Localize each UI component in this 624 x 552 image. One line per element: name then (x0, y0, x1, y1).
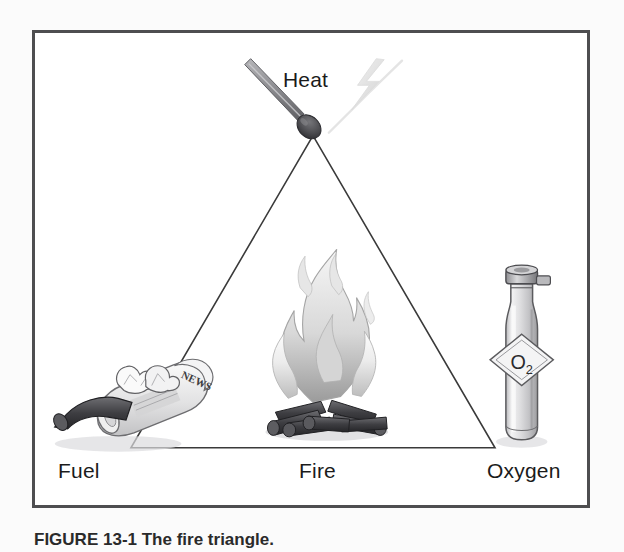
center-label-fire: Fire (299, 459, 336, 483)
cylinder-valve-nozzle (537, 276, 551, 285)
campfire-icon (265, 249, 388, 441)
figure-caption: FIGURE 13-1 The fire triangle. (34, 530, 594, 550)
figure-frame: NEWS (32, 30, 590, 508)
fuel-shadow (55, 436, 182, 452)
fire-triangle-illustration: NEWS (35, 33, 587, 505)
vertex-label-fuel: Fuel (58, 459, 100, 483)
figure-canvas: NEWS (35, 33, 587, 505)
cylinder-cap-inner (514, 267, 530, 272)
oxygen-cylinder-icon: O2 (490, 265, 553, 448)
flame-tip-left (298, 256, 312, 296)
cylinder-o2-placard: O2 (490, 334, 553, 385)
figure-caption-label: FIGURE (34, 530, 98, 549)
newspaper-log-icon: NEWS (51, 359, 214, 451)
lightning-bolt-icon (329, 59, 402, 133)
figure-caption-number: 13-1 (103, 530, 137, 549)
vertex-label-heat: Heat (283, 68, 328, 92)
figure-caption-text: The fire triangle. (142, 530, 274, 549)
vertex-label-oxygen: Oxygen (487, 459, 561, 483)
